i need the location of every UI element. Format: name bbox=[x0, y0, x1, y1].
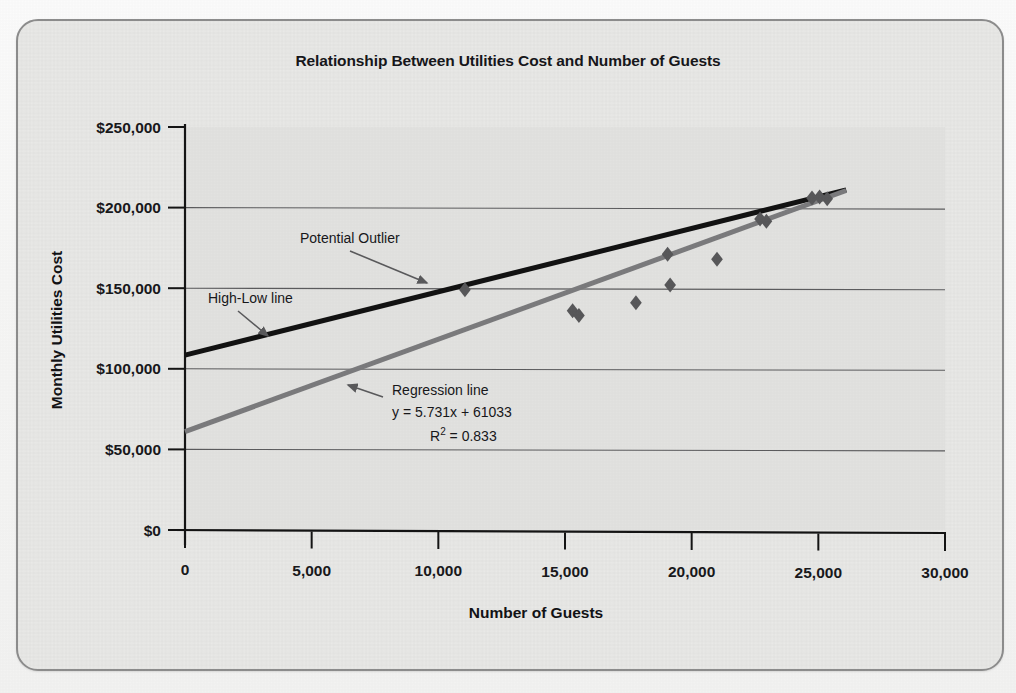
y-axis-tick-label: $150,000 bbox=[96, 280, 161, 297]
y-axis-title: Monthly Utilities Cost bbox=[48, 251, 65, 409]
annotation-regression-equation: y = 5.731x + 61033 bbox=[392, 404, 512, 420]
x-axis-tick-label: 10,000 bbox=[415, 562, 462, 579]
x-axis-title: Number of Guests bbox=[469, 604, 603, 621]
annotation-high-low-line: High-Low line bbox=[208, 290, 293, 306]
x-axis-tick-label: 15,000 bbox=[541, 563, 588, 580]
y-axis-tick-label: $250,000 bbox=[96, 119, 161, 136]
annotation-potential-outlier: Potential Outlier bbox=[300, 230, 400, 246]
annotation-r-squared: R2 = 0.833 bbox=[430, 426, 497, 444]
x-axis-ticks: 05,00010,00015,00020,00025,00030,000 bbox=[181, 531, 969, 581]
y-axis-ticks: $0$50,000$100,000$150,000$200,000$250,00… bbox=[96, 119, 185, 539]
r-squared-prefix: R bbox=[430, 428, 440, 444]
y-axis-tick-label: $100,000 bbox=[96, 360, 161, 377]
y-axis-tick-label: $200,000 bbox=[96, 199, 161, 216]
x-axis-tick-label: 5,000 bbox=[292, 562, 331, 579]
x-axis-line bbox=[172, 530, 946, 533]
r-squared-value: = 0.833 bbox=[446, 428, 497, 444]
chart-page: Relationship Between Utilities Cost and … bbox=[0, 0, 1016, 693]
y-axis-tick-label: $0 bbox=[144, 522, 161, 539]
y-axis-tick-label: $50,000 bbox=[105, 441, 161, 458]
scatter-plot: $0$50,000$100,000$150,000$200,000$250,00… bbox=[0, 0, 1016, 693]
x-axis-tick-label: 0 bbox=[181, 561, 190, 578]
x-axis-tick-label: 25,000 bbox=[795, 564, 842, 581]
x-axis-tick-label: 30,000 bbox=[921, 564, 968, 581]
x-axis-tick-label: 20,000 bbox=[668, 563, 715, 580]
annotation-regression-line: Regression line bbox=[392, 382, 489, 398]
